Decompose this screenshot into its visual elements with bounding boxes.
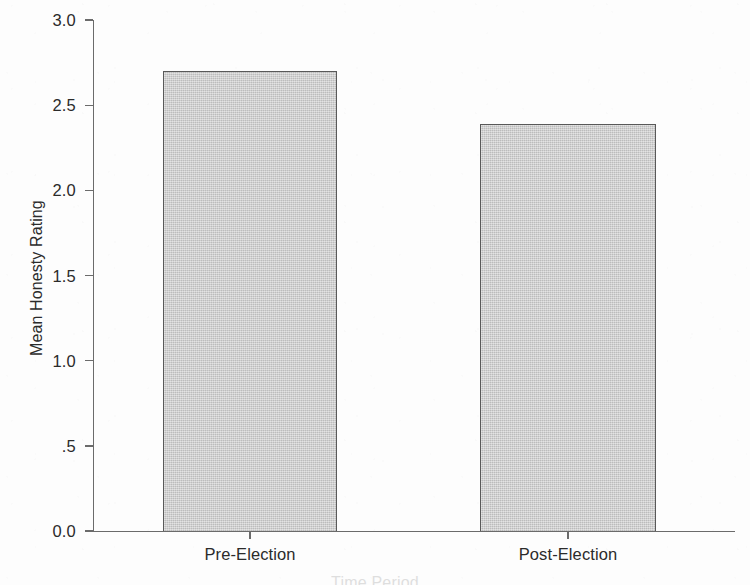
bar-chart-figure: Mean Honesty Rating 3.0 2.5 2.0 1.5 1.0 … xyxy=(0,0,750,585)
y-tick-mark-0 xyxy=(85,530,93,531)
y-tick-label-3: 3.0 xyxy=(30,11,76,30)
x-tick-mark-pre-election xyxy=(249,532,250,539)
bar-pre-election xyxy=(163,71,337,532)
y-tick-label-0: 0.0 xyxy=(30,522,76,541)
y-tick-label-0-5: .5 xyxy=(30,436,76,455)
y-tick-mark-1-5 xyxy=(85,275,93,276)
y-axis-line xyxy=(93,20,94,532)
x-axis-title-cropped: Time Period xyxy=(0,574,750,585)
y-tick-label-2: 2.0 xyxy=(30,181,76,200)
y-tick-mark-1 xyxy=(85,360,93,361)
bar-post-election xyxy=(480,124,656,532)
y-tick-label-2-5: 2.5 xyxy=(30,96,76,115)
y-tick-label-1: 1.0 xyxy=(30,351,76,370)
y-tick-mark-0-5 xyxy=(85,445,93,446)
y-tick-mark-2-5 xyxy=(85,105,93,106)
x-axis-line xyxy=(93,531,735,532)
x-tick-mark-post-election xyxy=(567,532,568,539)
x-tick-label-post-election: Post-Election xyxy=(519,545,618,564)
y-tick-mark-3 xyxy=(85,19,93,20)
y-tick-mark-2 xyxy=(85,190,93,191)
x-tick-label-pre-election: Pre-Election xyxy=(204,545,295,564)
y-tick-label-1-5: 1.5 xyxy=(30,266,76,285)
